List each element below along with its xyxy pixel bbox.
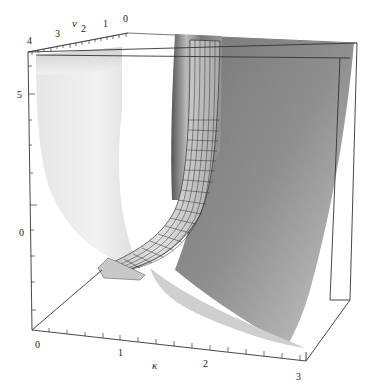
- left-surface-sheet: [36, 47, 140, 268]
- kappa-tick-0: 0: [35, 339, 40, 350]
- nu-tick-0: 0: [123, 13, 128, 24]
- nu-tick-2: 2: [81, 23, 86, 34]
- surface-plot-3d: 4 3 2 1 0 ν 5 0 0 1 2 3 κ: [0, 0, 369, 391]
- kappa-tick-1: 1: [118, 347, 123, 358]
- z-tick-0: 0: [19, 227, 24, 238]
- nu-tick-4: 4: [27, 35, 32, 46]
- nu-axis-label: ν: [72, 17, 77, 29]
- nu-tick-3: 3: [55, 28, 60, 39]
- z-tick-5: 5: [17, 89, 22, 100]
- nu-tick-1: 1: [103, 18, 108, 29]
- kappa-tick-2: 2: [203, 358, 208, 369]
- kappa-tick-3: 3: [296, 371, 301, 382]
- kappa-axis-label: κ: [152, 359, 158, 371]
- z-axis: [28, 66, 37, 310]
- surface-notch: [130, 36, 165, 100]
